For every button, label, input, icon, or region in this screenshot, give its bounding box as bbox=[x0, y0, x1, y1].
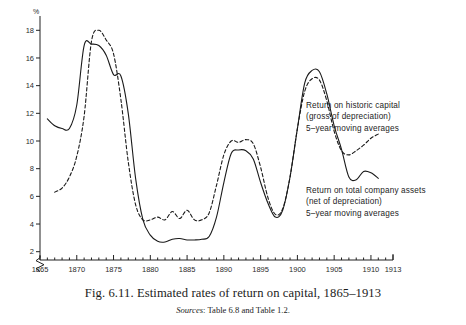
y-axis-unit-label: % bbox=[33, 8, 39, 15]
y-tick-label: 16 bbox=[26, 54, 34, 63]
annotation-total-line1: Return on total company assets bbox=[306, 185, 426, 196]
x-tick-label: 1895 bbox=[252, 265, 269, 274]
annotation-historic-line2: (gross of depreciation) bbox=[306, 111, 400, 122]
annotation-historic-line1: Return on historic capital bbox=[306, 100, 400, 111]
x-tick-label: 1875 bbox=[105, 265, 122, 274]
annotation-historic-line3: 5–year moving averages bbox=[306, 123, 400, 134]
source-label: Sources bbox=[176, 305, 203, 315]
annotation-total-line3: 5–year moving averages bbox=[306, 208, 426, 219]
y-tick-label: 10 bbox=[26, 137, 34, 146]
x-tick-label: 1890 bbox=[216, 265, 233, 274]
figure-container: 24681012141618%1865187018751880188518901… bbox=[0, 0, 466, 325]
y-tick-label: 8 bbox=[30, 164, 34, 173]
y-tick-label: 2 bbox=[30, 247, 34, 256]
chart-plot-area: 24681012141618%1865187018751880188518901… bbox=[0, 0, 466, 325]
x-tick-label: 1865 bbox=[32, 265, 49, 274]
x-tick-label: 1880 bbox=[142, 265, 159, 274]
x-tick-label: 1910 bbox=[363, 265, 380, 274]
x-tick-label: 1913 bbox=[385, 265, 402, 274]
annotation-historic-capital: Return on historic capital (gross of dep… bbox=[306, 100, 400, 134]
x-tick-label: 1905 bbox=[326, 265, 343, 274]
x-tick-label: 1900 bbox=[289, 265, 306, 274]
annotation-total-assets: Return on total company assets (net of d… bbox=[306, 185, 426, 219]
figure-caption: Fig. 6.11. Estimated rates of return on … bbox=[0, 286, 466, 301]
y-tick-label: 14 bbox=[26, 81, 34, 90]
annotation-total-line2: (net of depreciation) bbox=[306, 196, 426, 207]
figure-source-line: Sources: Table 6.8 and Table 1.2. bbox=[0, 305, 466, 315]
y-tick-label: 12 bbox=[26, 109, 34, 118]
x-tick-label: 1885 bbox=[179, 265, 196, 274]
y-tick-label: 6 bbox=[30, 192, 34, 201]
tick-labels-group: 24681012141618%1865187018751880188518901… bbox=[26, 8, 402, 274]
y-tick-label: 18 bbox=[26, 26, 34, 35]
source-text: : Table 6.8 and Table 1.2. bbox=[203, 305, 290, 315]
y-tick-label: 4 bbox=[30, 220, 34, 229]
x-tick-label: 1870 bbox=[68, 265, 85, 274]
